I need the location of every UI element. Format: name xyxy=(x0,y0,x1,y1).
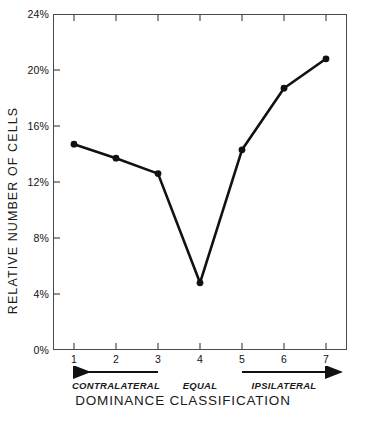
y-tick-label: 8% xyxy=(3,232,49,244)
data-point-marker xyxy=(197,279,204,286)
data-series-line xyxy=(74,59,326,283)
y-tick-label: 12% xyxy=(3,176,49,188)
y-tick-label: 24% xyxy=(3,8,49,20)
y-tick-label: 20% xyxy=(3,64,49,76)
x-tick-label: 5 xyxy=(232,353,252,365)
category-group-annotations: CONTRALATERALEQUALIPSILATERAL xyxy=(0,366,366,396)
data-point-marker xyxy=(113,155,120,162)
group-label: CONTRALATERAL xyxy=(72,380,160,391)
x-tick-label: 2 xyxy=(106,353,126,365)
plot-series-layer xyxy=(53,14,347,350)
y-tick-label: 16% xyxy=(3,120,49,132)
data-point-marker xyxy=(155,170,162,177)
group-label: EQUAL xyxy=(183,380,218,391)
y-axis-tick-labels: 0%4%8%12%16%20%24% xyxy=(0,0,49,421)
y-tick-label: 4% xyxy=(3,288,49,300)
data-point-marker xyxy=(323,55,330,62)
x-axis-title: DOMINANCE CLASSIFICATION xyxy=(0,393,366,408)
data-point-marker xyxy=(239,146,246,153)
x-tick-label: 6 xyxy=(274,353,294,365)
x-tick-label: 1 xyxy=(64,353,84,365)
group-label: IPSILATERAL xyxy=(252,380,317,391)
dominance-classification-chart: RELATIVE NUMBER OF CELLS 0%4%8%12%16%20%… xyxy=(0,0,366,421)
data-point-marker xyxy=(281,85,288,92)
x-tick-label: 7 xyxy=(316,353,336,365)
data-point-marker xyxy=(71,141,78,148)
x-tick-label: 3 xyxy=(148,353,168,365)
x-tick-label: 4 xyxy=(190,353,210,365)
y-tick-label: 0% xyxy=(3,344,49,356)
